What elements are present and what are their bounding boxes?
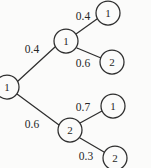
edge-label-root-to-branch-b: 0.6 (25, 118, 40, 130)
node-branch-a-label: 1 (63, 35, 69, 47)
edge-label-branch-b-to-leaf-b1: 0.7 (76, 101, 91, 113)
edge-label-branch-a-to-leaf-a1: 0.4 (76, 10, 91, 22)
edge-label-root-to-branch-a: 0.4 (25, 43, 40, 55)
node-leaf-b1-label: 1 (110, 100, 116, 112)
node-leaf-a1-label: 1 (105, 7, 111, 19)
node-branch-b-label: 2 (67, 124, 73, 136)
node-leaf-a2-label: 2 (109, 56, 115, 68)
edge-label-branch-a-to-leaf-a2: 0.6 (76, 57, 91, 69)
probability-tree-diagram: 1 1 2 1 2 1 2 0.4 0.6 0.4 0.6 0.7 0.3 (0, 0, 151, 168)
tree-canvas: 1 1 2 1 2 1 2 0.4 0.6 0.4 0.6 0.7 0.3 (0, 0, 151, 168)
node-root-label: 1 (4, 81, 10, 93)
edge-label-branch-b-to-leaf-b2: 0.3 (79, 150, 94, 162)
node-leaf-b2-label: 2 (112, 152, 118, 164)
node-group (0, 1, 127, 168)
